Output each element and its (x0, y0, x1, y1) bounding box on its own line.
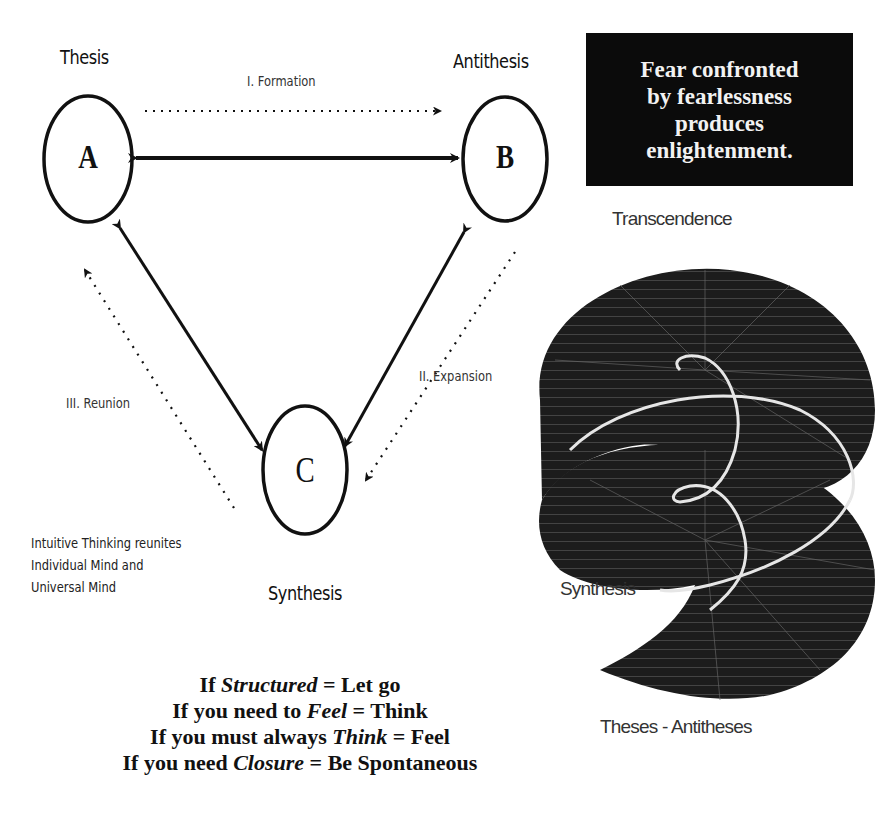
rule-emphasis: Structured (221, 672, 318, 697)
quote-line-2: by fearlessness (640, 83, 798, 110)
rule-emphasis: Feel (307, 698, 347, 723)
antithesis-label: Antithesis (453, 50, 529, 72)
quote-line-3: produces (640, 110, 798, 137)
theses-antitheses-label: Theses - Antitheses (600, 716, 752, 738)
node-a-letter: A (74, 138, 103, 176)
note-line-3: Universal Mind (31, 576, 181, 598)
transcendence-label: Transcendence (612, 208, 732, 230)
rule-line: If you need Closure = Be Spontaneous (40, 750, 560, 776)
intuitive-thinking-note: Intuitive Thinking reunites Individual M… (31, 532, 181, 598)
formation-label: I. Formation (247, 73, 316, 89)
quote-line-4: enlightenment. (640, 137, 798, 164)
arrow-b-c (345, 232, 464, 446)
reunion-label: III. Reunion (66, 395, 130, 411)
rule-line: If Structured = Let go (40, 672, 560, 698)
note-line-2: Individual Mind and (31, 554, 181, 576)
quote-box: Fear confronted by fearlessness produces… (586, 33, 853, 186)
rules-block: If Structured = Let go If you need to Fe… (40, 672, 560, 776)
synthesis-label: Synthesis (268, 582, 342, 604)
spiral-synthesis-label: Synthesis (560, 578, 635, 600)
expansion-label: II. Expansion (419, 368, 492, 384)
rule-emphasis: Think (332, 724, 387, 749)
thesis-label: Thesis (60, 46, 109, 68)
note-line-1: Intuitive Thinking reunites (31, 532, 181, 554)
node-b-letter: B (491, 138, 520, 176)
node-c-letter: C (291, 449, 320, 491)
spiral-illustration (530, 240, 895, 720)
rule-line: If you need to Feel = Think (40, 698, 560, 724)
dotted-arrow-reunion (85, 270, 234, 508)
quote-line-1: Fear confronted (640, 56, 798, 83)
rule-emphasis: Closure (233, 750, 304, 775)
rule-line: If you must always Think = Feel (40, 724, 560, 750)
arrow-a-c (120, 228, 262, 450)
